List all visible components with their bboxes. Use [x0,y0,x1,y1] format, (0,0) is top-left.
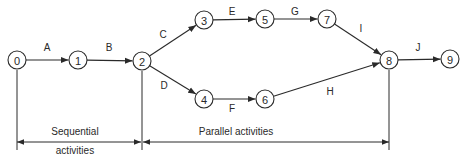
edge-g: G [274,6,318,19]
edge-b: B [87,42,133,61]
edge-d: D [150,66,196,94]
edge-arrow [398,59,441,60]
parallel-label: Parallel activities [199,126,273,137]
dimension-lines [17,70,389,150]
node-label: 2 [139,56,145,68]
node-7: 7 [318,10,336,28]
edge-f: F [213,99,256,114]
node-0: 0 [8,51,26,69]
node-label: 9 [447,54,453,66]
edge-arrow [87,60,133,61]
edge-label: D [160,80,167,91]
edge-arrow [213,19,256,20]
node-label: 1 [75,55,81,67]
edge-arrow [150,66,196,94]
edge-label: F [229,103,235,114]
edge-label: H [326,86,333,97]
node-label: 0 [14,55,20,67]
edge-arrow [150,25,197,56]
node-1: 1 [69,51,87,69]
edges: ABCDEFGIHJ [26,6,441,114]
edge-a: A [26,42,69,60]
node-8: 8 [380,51,398,69]
edge-label: E [229,6,236,17]
nodes: 0123456789 [8,10,459,108]
node-4: 4 [195,90,213,108]
edge-i: I [335,23,382,55]
edge-label: G [291,6,299,17]
node-label: 3 [201,15,207,27]
node-5: 5 [256,10,274,28]
node-label: 4 [201,94,207,106]
node-2: 2 [133,52,151,70]
edge-c: C [150,25,197,56]
edge-arrow [335,24,382,55]
edge-h: H [274,63,380,97]
edge-label: J [416,42,421,53]
network-diagram: ABCDEFGIHJ 0123456789 Sequential activit… [0,0,465,162]
node-label: 5 [262,14,268,26]
node-6: 6 [256,90,274,108]
edge-e: E [213,6,256,20]
edge-label: C [159,29,166,40]
node-label: 8 [386,55,392,67]
node-9: 9 [441,50,459,68]
edge-j: J [398,42,441,60]
sequential-label-line2: activities [56,145,94,156]
sequential-label-line1: Sequential [51,126,98,137]
edge-label: A [44,42,51,53]
node-3: 3 [195,11,213,29]
edge-label: B [106,42,113,53]
node-label: 6 [262,94,268,106]
edge-label: I [360,23,363,34]
node-label: 7 [324,14,330,26]
